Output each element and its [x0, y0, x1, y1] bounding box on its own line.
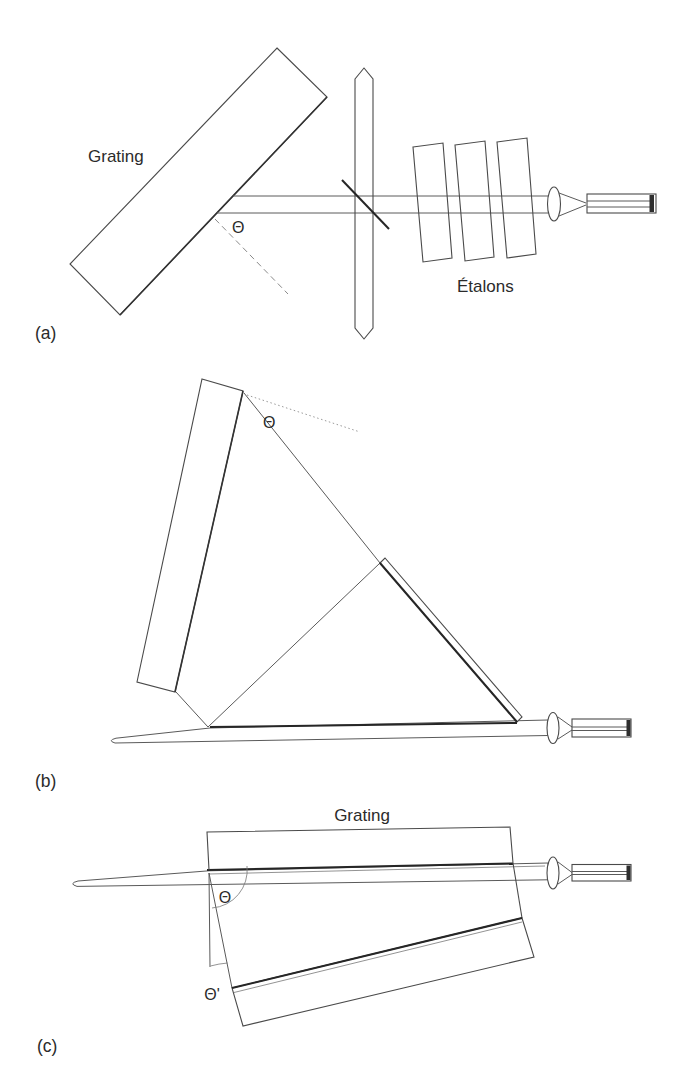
grating-a-label: Grating	[88, 147, 144, 166]
theta-prime-c-label: Θ'	[204, 986, 220, 1003]
ray-grating-bottom-to-pivot	[176, 692, 208, 727]
tuning-mirror-c-face-inner	[234, 922, 522, 993]
mirror-normal-reference-line	[209, 873, 210, 967]
diode-end-facet-b	[627, 720, 631, 736]
etalons-label: Étalons	[457, 277, 514, 296]
laser-diode-c	[572, 865, 631, 882]
figure-page: Grating Θ Étalons (a) Θ (b)	[0, 0, 683, 1087]
etalon-1	[413, 143, 452, 262]
lens-cone-upper-b	[558, 717, 572, 727]
panel-c: Grating Θ Θ' (c)	[37, 806, 631, 1056]
tuning-mirror-c-face	[232, 918, 522, 988]
laser-diode-b	[572, 719, 631, 737]
lens-cone-lower-b	[558, 730, 572, 739]
panel-b-tag: (b)	[35, 771, 56, 791]
grazing-beam-c	[73, 863, 548, 886]
ray-pivot-to-mirror	[208, 563, 380, 727]
lens-cone-upper-c	[558, 862, 572, 873]
tuning-mirror-c	[232, 918, 534, 1026]
panel-b: Θ (b)	[35, 379, 631, 791]
theta-prime-arc-c	[211, 963, 228, 966]
theta-c-label: Θ	[219, 889, 231, 906]
lens-cone-lower-a	[559, 205, 586, 216]
collimating-lens-c	[547, 857, 559, 889]
optical-diagram: Grating Θ Étalons (a) Θ (b)	[0, 0, 683, 1087]
laser-diode-a	[587, 194, 656, 213]
panel-a: Grating Θ Étalons (a)	[35, 48, 656, 343]
theta-a-label: Θ	[232, 219, 244, 236]
grating-b	[137, 379, 243, 692]
lens-cone-lower-c	[558, 875, 572, 885]
etalon-3	[497, 138, 536, 258]
diode-end-facet-c	[627, 866, 631, 881]
collimating-lens-b	[547, 713, 559, 744]
grating-a	[70, 48, 327, 315]
beam-splitter	[342, 180, 389, 229]
collimating-lens-a	[548, 187, 561, 221]
grating-a-front-face	[120, 97, 327, 315]
tuning-mirror-b-face	[380, 563, 517, 722]
etalon-2	[455, 141, 494, 261]
panel-c-tag: (c)	[37, 1036, 57, 1056]
theta-b-label: Θ	[263, 414, 275, 431]
grating-c-label: Grating	[334, 806, 390, 825]
tuning-mirror-b	[380, 558, 522, 722]
diode-end-facet-a	[650, 195, 655, 212]
lens-cone-upper-a	[559, 193, 586, 203]
panel-a-tag: (a)	[35, 323, 56, 343]
grating-normal-dashed-line	[215, 219, 288, 294]
